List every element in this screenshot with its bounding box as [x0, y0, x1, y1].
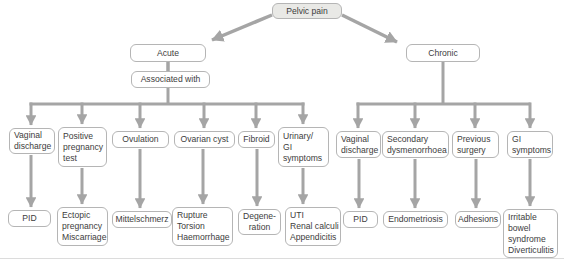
node-irritable-bowel-syndrome-diverticulitis: Irritable bowel syndrome Diverticulitis	[503, 209, 558, 258]
node-adhesions: Adhesions	[455, 211, 501, 228]
node-degeneration: Degene- ration	[238, 209, 281, 235]
node-positive-pregnancy-test: Positive pregnancy test	[58, 127, 107, 167]
node-vaginal-discharge-chronic: Vaginal discharge	[336, 131, 381, 158]
node-urinary-gi-symptoms: Urinary/ GI symptoms	[278, 127, 329, 167]
node-uti-renal-calculi-appendicitis: UTI Renal calculi Appendicitis	[285, 207, 341, 246]
edge-root-chronic	[342, 15, 397, 42]
node-endometriosis: Endometriosis	[383, 211, 448, 228]
pelvic-pain-flowchart: Pelvic pain Acute Associated with Chroni…	[0, 0, 564, 262]
chronic-branch-trunk	[357, 61, 531, 104]
node-acute: Acute	[130, 44, 206, 62]
node-pid-chronic: PID	[343, 211, 378, 228]
node-pid-acute: PID	[8, 210, 51, 227]
acute-branch-trunk	[30, 87, 305, 104]
node-ovulation: Ovulation	[112, 131, 169, 148]
edge-root-acute	[212, 15, 272, 40]
node-associated-with: Associated with	[131, 71, 210, 88]
node-chronic: Chronic	[406, 44, 480, 62]
node-ovarian-cyst: Ovarian cyst	[174, 131, 235, 148]
node-ectopic-pregnancy-miscarriage: Ectopic pregnancy Miscarriage	[57, 207, 108, 246]
node-pelvic-pain: Pelvic pain	[272, 3, 342, 19]
node-gi-symptoms: GI symptoms	[507, 131, 553, 158]
node-fibroid: Fibroid	[238, 131, 275, 148]
node-secondary-dysmenorrhoea: Secondary dysmenorrhoea	[382, 131, 449, 158]
node-vaginal-discharge-acute: Vaginal discharge	[9, 128, 55, 154]
node-previous-surgery: Previous surgery	[452, 131, 499, 158]
node-mittelschmerz: Mittelschmerz	[112, 211, 172, 228]
node-rupture-torsion-haemorrhage: Rupture Torsion Haemorrhage	[172, 207, 233, 246]
